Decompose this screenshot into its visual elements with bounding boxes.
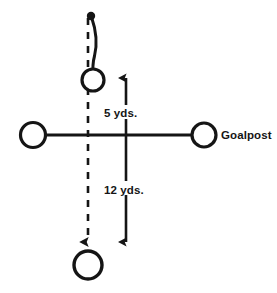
play-diagram-container: 5 yds. 12 yds. Goalpost (0, 0, 277, 293)
distance-label-short: 5 yds. (104, 107, 137, 119)
player-circle-kicker (74, 251, 102, 279)
goalpost-circle-right (192, 123, 216, 147)
football-play-diagram: 5 yds. 12 yds. Goalpost (0, 0, 277, 293)
diagram-background (0, 0, 277, 293)
player-circle-holder (82, 69, 104, 91)
distance-label-long: 12 yds. (104, 184, 144, 196)
goalpost-label: Goalpost (221, 129, 272, 141)
ball-dot-marker (87, 12, 95, 20)
goalpost-circle-left (21, 123, 46, 148)
